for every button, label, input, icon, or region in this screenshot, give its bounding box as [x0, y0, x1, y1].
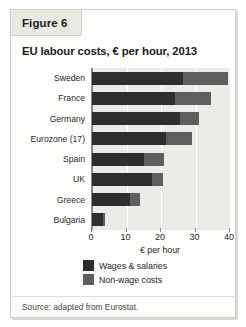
chart-title: EU labour costs, € per hour, 2013 — [22, 45, 228, 57]
bar-segment-nonwage — [166, 132, 192, 145]
x-axis-label: € per hour — [91, 245, 229, 255]
bar-segment-wages — [92, 92, 175, 105]
legend-item: Wages & salaries — [83, 260, 167, 271]
bar-segment-nonwage — [130, 193, 140, 206]
y-axis-label: UK — [11, 169, 89, 189]
bar-segment-nonwage — [103, 213, 105, 226]
legend-item: Non-wage costs — [83, 274, 167, 285]
x-tick-label: 30 — [189, 232, 199, 242]
bar-segment-wages — [92, 72, 183, 85]
bar-series-group — [92, 68, 230, 230]
bar-segment-nonwage — [175, 92, 211, 105]
bar-segment-nonwage — [152, 173, 162, 186]
bar-segment-wages — [92, 173, 152, 186]
source-divider — [12, 296, 236, 297]
bar-row — [92, 132, 192, 145]
y-axis-label: Sweden — [11, 68, 89, 88]
legend-swatch-icon — [83, 274, 94, 285]
legend-label: Non-wage costs — [99, 275, 162, 285]
figure-tab: Figure 6 — [11, 10, 82, 36]
bar-segment-wages — [92, 193, 130, 206]
chart-legend: Wages & salariesNon-wage costs — [83, 260, 167, 288]
bar-segment-wages — [92, 213, 103, 226]
bar-segment-nonwage — [180, 112, 199, 125]
x-axis-ticks: 010203040 — [91, 232, 229, 246]
bar-row — [92, 112, 199, 125]
bar-segment-nonwage — [144, 153, 165, 166]
x-tick-label: 20 — [155, 232, 165, 242]
bar-segment-wages — [92, 112, 180, 125]
bar-row — [92, 193, 140, 206]
x-tick-label: 0 — [88, 232, 93, 242]
bar-row — [92, 153, 164, 166]
x-tick-label: 10 — [120, 232, 130, 242]
plot-area — [91, 68, 230, 230]
bar-segment-wages — [92, 153, 144, 166]
figure-card: Figure 6 EU labour costs, € per hour, 20… — [10, 9, 236, 318]
y-axis-label: Bulgaria — [11, 210, 89, 230]
y-axis-label: France — [11, 88, 89, 108]
gridline — [230, 68, 231, 230]
figure-tab-label: Figure 6 — [22, 17, 68, 29]
y-axis-label: Spain — [11, 149, 89, 169]
bar-row — [92, 173, 163, 186]
bar-row — [92, 92, 211, 105]
bar-segment-nonwage — [183, 72, 228, 85]
y-axis-label: Greece — [11, 190, 89, 210]
bar-segment-wages — [92, 132, 166, 145]
x-tick-label: 40 — [224, 232, 234, 242]
y-axis-labels: SwedenFranceGermanyEurozone (17)SpainUKG… — [11, 68, 89, 230]
source-note: Source: adapted from Eurostat. — [22, 302, 138, 312]
bar-row — [92, 213, 105, 226]
bar-row — [92, 72, 228, 85]
legend-swatch-icon — [83, 260, 94, 271]
y-axis-label: Germany — [11, 109, 89, 129]
legend-label: Wages & salaries — [99, 261, 167, 271]
y-axis-label: Eurozone (17) — [11, 129, 89, 149]
chart-plot-region: SwedenFranceGermanyEurozone (17)SpainUKG… — [11, 60, 237, 256]
